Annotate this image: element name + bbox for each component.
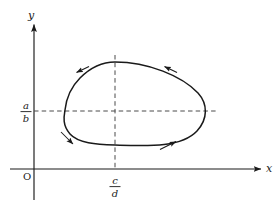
tick-labels-group: a b c d: [21, 100, 121, 199]
y-axis-label: y: [27, 9, 35, 22]
closed-orbit-curve: [64, 62, 205, 146]
top-right-flow-arrow: [165, 67, 178, 73]
closed-orbit-group: [64, 62, 205, 146]
phase-portrait-canvas: y x O a b c d: [0, 0, 280, 205]
bottom-left-flow-arrow: [61, 132, 73, 144]
bottom-right-flow-arrow: [160, 142, 176, 150]
axes-group: [10, 25, 261, 201]
x-tick-fraction-cd: c d: [110, 175, 121, 199]
x-axis-label: x: [266, 162, 273, 175]
origin-label: O: [23, 171, 31, 182]
x-tick-denominator: d: [112, 188, 118, 199]
phase-portrait-figure: y x O a b c d: [0, 0, 280, 205]
y-tick-numerator: a: [23, 100, 29, 111]
y-tick-denominator: b: [23, 113, 29, 124]
y-tick-fraction-ab: a b: [21, 100, 32, 124]
x-tick-numerator: c: [112, 175, 118, 186]
guide-lines-group: [34, 55, 216, 170]
axis-labels-group: y x O: [23, 9, 273, 182]
